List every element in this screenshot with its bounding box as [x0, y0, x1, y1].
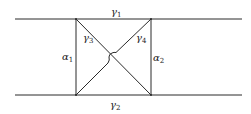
vertex-top-right	[150, 18, 152, 20]
label-alpha2: α2	[153, 52, 164, 65]
label-gamma3: γ3	[83, 32, 93, 45]
label-gamma2: γ2	[110, 99, 120, 112]
label-gamma4: γ4	[136, 32, 147, 45]
label-gamma1: γ1	[111, 6, 121, 19]
vertex-bottom-right	[150, 94, 152, 96]
vertex-bottom-left	[75, 94, 77, 96]
diagram-canvas: γ1 γ2 α1 α2 γ3 γ4	[0, 0, 251, 114]
label-alpha1: α1	[62, 51, 73, 64]
vertex-top-left	[75, 18, 77, 20]
